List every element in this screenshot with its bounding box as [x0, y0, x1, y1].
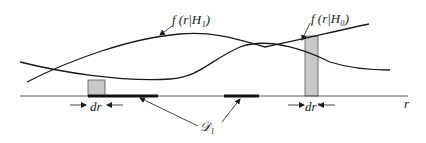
label-r-axis: r: [404, 97, 409, 110]
right-shaded-strip: [305, 36, 318, 96]
left-shaded-strip: [88, 80, 105, 96]
label-dr-left: dr: [90, 100, 102, 113]
arrow-f-h1: [160, 26, 172, 35]
label-dr-right: dr′: [305, 100, 319, 113]
label-f-r-h1: f (r|H₁): [172, 13, 210, 26]
label-decision-region-d1: 𝒟₁: [200, 120, 215, 133]
likelihood-diagram: f (r|H₁) f (r|H₀) dr dr′ 𝒟₁ r: [0, 0, 426, 143]
d1-pointer-1: [140, 98, 198, 126]
label-f-r-h0: f (r|H₀): [311, 12, 349, 25]
d1-pointer-2: [222, 99, 240, 122]
curve-f-r-h0: [20, 43, 390, 79]
